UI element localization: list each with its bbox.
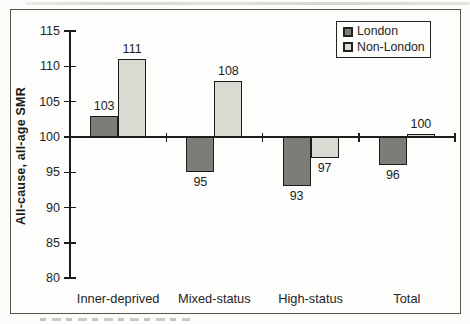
bar-value-label: 103	[86, 99, 122, 113]
x-axis-tick	[454, 133, 456, 142]
bar-value-label: 100	[403, 117, 439, 131]
bar-value-label: 97	[307, 161, 343, 175]
x-category-label-mixed-status: Mixed-status	[164, 291, 264, 306]
legend-label-london: London	[357, 25, 398, 38]
y-tick-label: 100	[28, 129, 60, 145]
bar-london-inner-deprived	[90, 116, 118, 137]
y-axis-line	[69, 31, 70, 278]
y-tick-label: 115	[28, 23, 60, 39]
bar-non-london-inner-deprived	[118, 59, 146, 137]
legend-swatch-non-london-icon	[343, 42, 353, 52]
y-axis-tick	[64, 242, 76, 244]
bar-value-label: 108	[210, 64, 246, 78]
y-axis-title: All-cause, all-age SMR	[14, 87, 28, 225]
y-tick-label: 105	[28, 94, 60, 110]
bar-london-total	[379, 137, 407, 165]
x-axis-tick	[358, 133, 360, 142]
scan-artifact-top	[26, 2, 470, 5]
legend-item-london: London	[343, 25, 430, 38]
y-tick-label: 85	[28, 235, 60, 251]
bar-london-mixed-status	[186, 137, 214, 172]
y-axis-tick	[64, 30, 76, 32]
x-axis-tick	[262, 133, 264, 142]
bar-value-label: 95	[182, 175, 218, 189]
scanned-figure-page: All-cause, all-age SMR 80859095100105110…	[0, 0, 470, 324]
legend-swatch-london-icon	[343, 27, 353, 37]
y-tick-label: 95	[28, 164, 60, 180]
x-category-label-high-status: High-status	[261, 291, 361, 306]
bar-value-label: 111	[114, 42, 150, 56]
legend-item-non-london: Non-London	[343, 41, 430, 54]
y-tick-label: 110	[28, 58, 60, 74]
x-category-label-total: Total	[357, 291, 457, 306]
x-axis-tick	[166, 133, 168, 142]
y-axis-tick	[64, 277, 76, 279]
bar-non-london-high-status	[311, 137, 339, 158]
cut-off-caption-artifact	[40, 318, 190, 321]
legend: London Non-London	[336, 21, 431, 58]
x-category-label-inner-deprived: Inner-deprived	[68, 291, 168, 306]
y-axis-tick	[64, 66, 76, 68]
legend-label-non-london: Non-London	[357, 41, 425, 54]
bar-value-label: 96	[375, 168, 411, 182]
y-axis-tick	[64, 172, 76, 174]
bar-non-london-mixed-status	[214, 81, 242, 137]
y-tick-label: 80	[28, 270, 60, 286]
bar-non-london-total	[407, 134, 435, 137]
y-axis-tick	[64, 101, 76, 103]
y-tick-label: 90	[28, 200, 60, 216]
bar-value-label: 93	[279, 189, 315, 203]
y-axis-tick	[64, 207, 76, 209]
